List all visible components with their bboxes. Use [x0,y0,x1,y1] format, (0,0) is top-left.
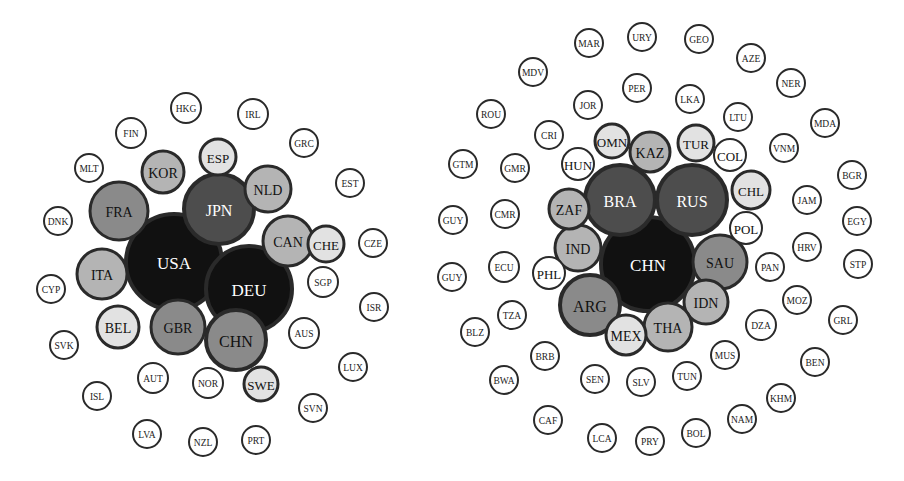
node-label: BGR [842,171,862,181]
node-zaf: ZAF [549,189,589,229]
node-guy: GUY [439,206,467,234]
node-lka: LKA [676,85,704,113]
node-label: IRL [245,110,261,120]
node-label: MEX [610,329,641,344]
node-pol: POL [730,212,762,244]
node-label: KAZ [636,146,665,161]
node-col: COL [714,139,746,171]
node-ltu: LTU [724,103,752,131]
node-jam: JAM [793,186,821,214]
node-phl: PHL [533,257,565,289]
node-label: LKA [680,95,700,105]
node-label: BEL [105,321,131,336]
node-ita: ITA [77,249,127,299]
node-blz: BLZ [461,318,489,346]
node-cyp: CYP [37,275,65,303]
node-label: OMN [597,135,628,150]
node-label: CZE [364,239,382,249]
node-pry: PRY [636,427,664,455]
node-label: GRC [294,139,314,149]
node-mdv: MDV [519,58,547,86]
node-caf: CAF [534,406,562,434]
node-label: HKG [176,104,197,114]
node-per: PER [623,74,651,102]
node-label: SAU [706,256,734,271]
node-swe: SWE [244,367,278,401]
node-mar: MAR [575,29,603,57]
node-bgr: BGR [838,161,866,189]
node-nld: NLD [245,166,291,212]
node-prt: PRT [242,426,270,454]
node-label: CHN [630,256,666,275]
node-pan: PAN [756,253,784,281]
node-label: RUS [676,193,707,210]
node-nam: NAM [728,405,756,433]
node-guy: GUY [438,263,466,291]
node-label: BEN [806,358,825,368]
node-ben: BEN [801,348,829,376]
node-label: DEU [232,281,267,300]
node-label: MOZ [786,296,807,306]
node-label: LUX [343,363,363,373]
node-label: SLV [632,378,649,388]
node-label: CAN [273,235,303,250]
node-gbr: GBR [151,300,205,354]
node-lva: LVA [133,420,161,448]
node-fin: FIN [116,118,146,148]
node-dnk: DNK [44,207,72,235]
node-ecu: ECU [489,252,519,282]
node-label: ISR [367,303,382,313]
node-bel: BEL [97,306,139,348]
node-cri: CRI [535,121,563,149]
node-label: NAM [731,415,754,425]
node-nor: NOR [193,368,223,398]
node-hkg: HKG [171,93,201,123]
node-label: ISL [90,392,104,402]
node-gtm: GTM [449,150,477,178]
node-tha: THA [644,303,692,351]
node-label: AZE [742,54,761,64]
node-grl: GRL [829,306,857,334]
node-label: PRY [641,437,659,447]
node-tun: TUN [673,362,701,390]
node-label: PRT [248,436,265,446]
node-label: SGP [314,278,331,288]
node-mlt: MLT [75,154,103,182]
node-label: PER [628,84,646,94]
node-label: TUN [677,372,697,382]
node-chn: CHN [206,310,266,370]
node-label: DZA [751,321,771,331]
node-label: KHM [770,394,793,404]
node-label: HUN [564,158,593,173]
node-mda: MDA [811,109,839,137]
node-svn: SVN [299,394,327,422]
node-label: VNM [773,144,796,154]
node-label: JOR [580,101,598,111]
node-bwa: BWA [490,366,518,394]
node-label: FRA [105,205,133,220]
node-label: SWE [247,378,275,393]
node-label: FIN [123,129,138,139]
node-lux: LUX [339,353,367,381]
node-khm: KHM [767,384,795,412]
node-hun: HUN [562,148,594,180]
node-label: EGY [847,217,867,227]
node-label: COL [717,149,743,164]
node-label: USA [157,254,192,273]
node-label: MLT [79,164,98,174]
node-label: TUR [683,137,709,152]
node-isr: ISR [360,293,388,321]
node-label: CHE [313,238,339,253]
node-est: EST [336,169,364,197]
node-label: NZL [194,438,213,448]
node-label: BRB [535,352,554,362]
node-slv: SLV [627,368,655,396]
node-label: IDN [694,296,719,311]
node-nzl: NZL [189,428,217,456]
node-label: GUY [443,216,464,226]
node-label: GRL [834,316,853,326]
node-label: SEN [586,375,604,385]
node-label: CHN [219,333,253,350]
node-vnm: VNM [770,134,798,162]
node-label: GBR [164,321,193,336]
